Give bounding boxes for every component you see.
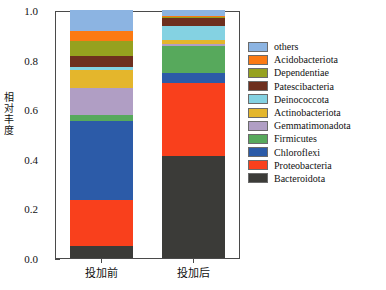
plot-area [55, 11, 240, 259]
legend-label: Gemmatimonadota [274, 120, 351, 131]
x-axis-tick [193, 259, 194, 263]
legend-swatch-icon [248, 160, 268, 170]
legend-swatch-icon [248, 134, 268, 144]
legend-item[interactable]: Proteobacteria [248, 159, 384, 172]
bar-segment-chloroflexi[interactable] [70, 121, 133, 200]
bar-segment-proteobacteria[interactable] [70, 200, 133, 246]
legend-swatch-icon [248, 121, 268, 131]
legend-swatch-icon [248, 42, 268, 52]
legend-label: Actinobacteriota [274, 107, 341, 118]
bar-segment-dependentiae[interactable] [70, 41, 133, 56]
bar-segment-firmicutes[interactable] [70, 115, 133, 121]
legend-swatch-icon [248, 94, 268, 104]
stacked-bar-after[interactable] [162, 10, 225, 258]
bar-segment-actinobacteriota[interactable] [162, 40, 225, 44]
x-axis-label-before: 投加前 [61, 264, 141, 280]
bar-segment-acidobacteriota[interactable] [70, 31, 133, 41]
legend-item[interactable]: others [248, 40, 384, 53]
bar-segment-chloroflexi[interactable] [162, 73, 225, 83]
bar-segment-firmicutes[interactable] [162, 46, 225, 73]
x-axis-tick [101, 259, 102, 263]
bar-segment-patescibacteria[interactable] [70, 56, 133, 67]
legend-label: Dependentiae [274, 67, 329, 78]
stacked-bar-before[interactable] [70, 10, 133, 258]
legend-item[interactable]: Actinobacteriota [248, 106, 384, 119]
y-axis-tick-label: 1.0 [8, 5, 38, 17]
legend-swatch-icon [248, 68, 268, 78]
y-axis-tick-major [55, 259, 60, 260]
bar-segment-patescibacteria[interactable] [162, 18, 225, 26]
legend-label: Proteobacteria [274, 160, 332, 171]
legend-label: Chloroflexi [274, 147, 320, 158]
legend-label: Bacteroidota [274, 173, 325, 184]
legend-item[interactable]: Chloroflexi [248, 146, 384, 159]
bar-segment-acidobacteriota[interactable] [162, 16, 225, 17]
legend-item[interactable]: Firmicutes [248, 132, 384, 145]
bar-segment-actinobacteriota[interactable] [70, 70, 133, 88]
legend-swatch-icon [248, 147, 268, 157]
legend: othersAcidobacteriotaDependentiaePatesci… [248, 40, 384, 185]
legend-item[interactable]: Acidobacteriota [248, 53, 384, 66]
legend-label: others [274, 41, 298, 52]
legend-label: Deinococcota [274, 94, 329, 105]
y-axis-tick-label: 0.8 [8, 55, 38, 67]
legend-swatch-icon [248, 173, 268, 183]
x-axis-label-after: 投加后 [153, 264, 233, 280]
y-axis-tick-label: 0.6 [8, 104, 38, 116]
y-axis-tick-label: 0.0 [8, 253, 38, 265]
bar-segment-others[interactable] [162, 10, 225, 16]
legend-item[interactable]: Deinococcota [248, 93, 384, 106]
y-axis-tick-labels: 0.00.20.40.60.81.0 [6, 0, 38, 290]
legend-item[interactable]: Bacteroidota [248, 172, 384, 185]
bar-segment-bacteroidota[interactable] [162, 156, 225, 258]
legend-swatch-icon [248, 108, 268, 118]
bar-segment-others[interactable] [70, 10, 133, 31]
legend-label: Patescibacteria [274, 81, 334, 92]
bar-segment-gemmatimonadota[interactable] [162, 44, 225, 46]
legend-swatch-icon [248, 55, 268, 65]
y-axis-tick-label: 0.2 [8, 203, 38, 215]
bar-segment-proteobacteria[interactable] [162, 83, 225, 156]
bar-segment-deinococcota[interactable] [162, 26, 225, 40]
bar-segment-gemmatimonadota[interactable] [70, 88, 133, 115]
bar-segment-bacteroidota[interactable] [70, 246, 133, 258]
legend-item[interactable]: Gemmatimonadota [248, 119, 384, 132]
legend-label: Acidobacteriota [274, 54, 338, 65]
stacked-bar-chart: 相 对 丰 度 0.00.20.40.60.81.0 投加前 投加后 other… [0, 0, 386, 290]
y-axis-tick-label: 0.4 [8, 154, 38, 166]
bar-segment-dependentiae[interactable] [162, 17, 225, 18]
legend-item[interactable]: Patescibacteria [248, 80, 384, 93]
legend-swatch-icon [248, 81, 268, 91]
bar-segment-deinococcota[interactable] [70, 67, 133, 70]
legend-label: Firmicutes [274, 133, 317, 144]
legend-item[interactable]: Dependentiae [248, 66, 384, 79]
